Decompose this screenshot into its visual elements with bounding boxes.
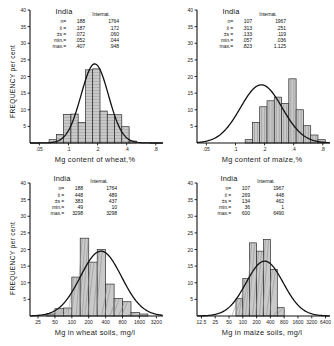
stats-header-india: India — [211, 8, 251, 18]
histogram-bar — [100, 111, 107, 143]
y-tick-label: 40 — [175, 7, 193, 13]
stats-header: India Internat. — [42, 175, 117, 185]
x-tick-label: .4 — [292, 146, 296, 152]
stats-row-max: max.= 3298 3298 — [42, 210, 117, 216]
y-tick-label: 10 — [8, 280, 26, 286]
histogram-bar — [260, 107, 267, 143]
y-tick-label: 35 — [175, 24, 193, 30]
x-tick-label: 100 — [239, 319, 247, 325]
y-tick-label: 30 — [175, 40, 193, 46]
stats-internat-max: 3298 — [83, 210, 117, 216]
stats-header-internat: Internat. — [84, 8, 118, 18]
histogram-bar — [107, 114, 114, 143]
x-tick-label: 200 — [85, 319, 93, 325]
x-tick-label: .1 — [66, 146, 70, 152]
histogram-bars — [42, 238, 148, 316]
x-tick-label: .8 — [321, 146, 325, 152]
stats-row-max: max.= 600 6490 — [209, 210, 284, 216]
y-tick-label: 20 — [175, 247, 193, 253]
y-tick-label: 25 — [8, 57, 26, 63]
y-tick-label: 30 — [8, 40, 26, 46]
x-axis-label: Mg content of wheat,% — [30, 155, 160, 164]
panel-wheat-mg-content: FREQUENCY per cent Mg content of wheat,%… — [0, 0, 167, 173]
x-axis-label: Mg content of maize,% — [197, 155, 327, 164]
stats-header-india: India — [209, 175, 249, 185]
stats-header: India Internat. — [211, 8, 286, 18]
stats-header-india: India — [42, 175, 82, 185]
histogram-bar — [289, 79, 296, 143]
y-tick-label: 20 — [8, 247, 26, 253]
x-tick-label: 3200 — [151, 319, 162, 325]
y-tick-label: 5 — [8, 123, 26, 129]
x-tick-label: .8 — [154, 146, 158, 152]
x-axis-label: Mg in maize soils, mg/l — [195, 328, 329, 337]
stats-india-max: .407 — [67, 43, 85, 49]
x-tick-label: 1600 — [134, 319, 145, 325]
y-tick-label: 30 — [8, 213, 26, 219]
panel-maize-mg-content: FREQUENCY per cent Mg content of maize,%… — [167, 0, 334, 173]
y-tick-label: 40 — [175, 180, 193, 186]
y-tick-label: 35 — [8, 24, 26, 30]
histogram-bar — [93, 69, 100, 143]
x-tick-label: .2 — [95, 146, 99, 152]
stats-table-maize-soils-mg: India Internat. n= 107 1967 x̄ = 269 448… — [209, 175, 284, 216]
histogram-bar — [267, 101, 274, 143]
stats-label-max: max.= — [211, 43, 234, 49]
x-tick-label: .2 — [262, 146, 266, 152]
stats-header-internat: Internat. — [251, 8, 285, 18]
x-tick-label: 3200 — [306, 319, 317, 325]
histogram-bar — [252, 122, 259, 143]
y-tick-label: 20 — [8, 74, 26, 80]
stats-label-max: max.= — [44, 43, 67, 49]
stats-internat-max: 6490 — [250, 210, 284, 216]
y-tick-label: 10 — [175, 107, 193, 113]
panel-maize-soils-mg: FREQUENCY per cent Mg in maize soils, mg… — [167, 173, 334, 346]
x-tick-label: 25 — [35, 319, 41, 325]
stats-row-max: max.= .407 .948 — [44, 43, 119, 49]
y-tick-label: 20 — [175, 74, 193, 80]
histogram-bars — [49, 69, 136, 143]
stats-header-india: India — [44, 8, 84, 18]
y-tick-label: 30 — [175, 213, 193, 219]
stats-internat-max: .948 — [85, 43, 119, 49]
stats-table-wheat-soils-mg: India Internat. n= 188 1764 x̄ = 448 489… — [42, 175, 117, 216]
stats-india-max: 600 — [232, 210, 250, 216]
y-tick-label: 15 — [8, 263, 26, 269]
histogram-bar — [277, 308, 284, 316]
y-tick-label: 5 — [8, 296, 26, 302]
x-tick-label: 400 — [101, 319, 109, 325]
histogram-bar — [303, 126, 310, 143]
x-tick-label: .1 — [233, 146, 237, 152]
x-tick-label: 800 — [118, 319, 126, 325]
stats-label-max: max.= — [42, 210, 65, 216]
y-tick-label: 25 — [175, 230, 193, 236]
stats-india-max: 3298 — [65, 210, 83, 216]
x-tick-label: 25 — [212, 319, 218, 325]
histogram-bars — [245, 79, 325, 143]
y-tick-label: 40 — [8, 180, 26, 186]
x-tick-label: 1600 — [292, 319, 303, 325]
x-tick-label: 50 — [52, 319, 58, 325]
histogram-bars — [232, 240, 284, 316]
y-tick-label: 10 — [175, 280, 193, 286]
y-tick-label: 5 — [175, 123, 193, 129]
y-tick-label: 5 — [175, 296, 193, 302]
histogram-bar — [85, 70, 92, 143]
x-tick-label: 100 — [68, 319, 76, 325]
x-tick-label: .05 — [203, 146, 210, 152]
x-tick-label: 12.5 — [197, 319, 207, 325]
x-tick-label: .4 — [125, 146, 129, 152]
stats-table-maize-mg-content: India Internat. n= 107 1967 x̄ = .313 .2… — [211, 8, 286, 49]
y-tick-label: 35 — [175, 197, 193, 203]
x-tick-label: 6400 — [320, 319, 331, 325]
y-tick-label: 15 — [175, 90, 193, 96]
stats-header-internat: Internat. — [249, 175, 283, 185]
x-tick-label: 800 — [280, 319, 288, 325]
y-tick-label: 35 — [8, 197, 26, 203]
histogram-bar — [71, 114, 78, 143]
stats-india-max: .823 — [234, 43, 252, 49]
stats-row-max: max.= .823 1.125 — [211, 43, 286, 49]
figure-grid: FREQUENCY per cent Mg content of wheat,%… — [0, 0, 334, 346]
x-axis-label: Mg in wheat soils, mg/l — [28, 328, 162, 337]
y-tick-label: 15 — [175, 263, 193, 269]
